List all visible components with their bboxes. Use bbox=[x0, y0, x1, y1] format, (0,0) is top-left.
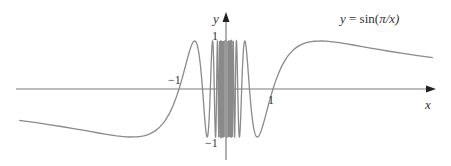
x-axis-arrow-icon bbox=[426, 86, 436, 93]
function-annotation: y = sin(π/x) bbox=[340, 12, 399, 25]
dense-oscillation-region bbox=[224, 41, 228, 137]
x-tick-label-pos1: 1 bbox=[268, 94, 274, 106]
annotation-suffix: /x) bbox=[386, 11, 400, 26]
y-tick-label-pos1: 1 bbox=[212, 30, 218, 42]
y-tick-label-neg1: −1 bbox=[205, 137, 218, 149]
y-axis-arrow-icon bbox=[223, 12, 230, 22]
x-axis-label: x bbox=[425, 98, 431, 111]
x-tick-label-neg1: −1 bbox=[168, 74, 181, 86]
y-axis-label: y bbox=[213, 12, 219, 25]
annotation-eq: = sin( bbox=[346, 11, 379, 26]
